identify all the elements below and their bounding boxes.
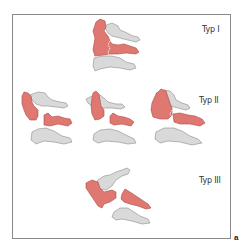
label-type-1: Typ I: [202, 25, 219, 34]
label-type-3: Typ III: [199, 176, 221, 185]
type-3-illustration: [86, 168, 151, 224]
type-1-illustration: [93, 19, 140, 71]
type-2-illustration-2: [86, 91, 136, 144]
type-2-illustration-3: [151, 89, 205, 145]
label-type-2: Typ II: [199, 96, 219, 105]
type-2-illustration-1: [22, 92, 72, 144]
panel-letter: a: [234, 233, 238, 242]
diagram-canvas: [0, 0, 242, 248]
